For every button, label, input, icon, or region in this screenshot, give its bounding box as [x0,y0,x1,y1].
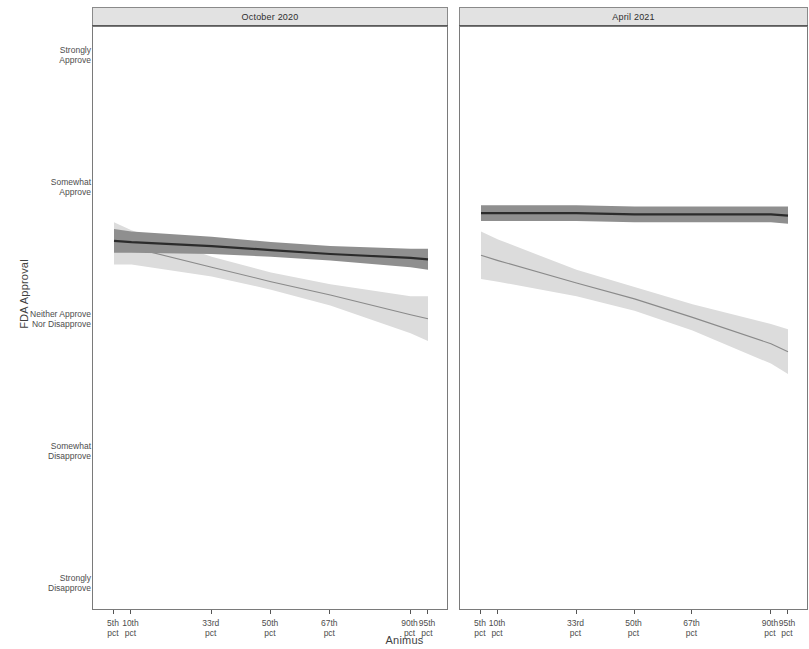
y-tick-label: Somewhat Disapprove [1,441,91,461]
x-tick-label: 10th pct [107,618,153,638]
x-tick-mark [634,610,635,614]
x-tick-label: 50th pct [611,618,657,638]
x-tick-label: 33rd pct [188,618,234,638]
x-tick-mark [410,610,411,614]
x-tick-mark [576,610,577,614]
x-tick-mark [113,610,114,614]
y-tick-label: Strongly Approve [1,45,91,65]
panel-strip-april-2021: April 2021 [459,7,808,26]
x-tick-mark [787,610,788,614]
facet-chart-figure: FDA Approval Animus Strongly ApproveSome… [0,0,809,649]
y-tick-label: Neither Approve Nor Disapprove [1,309,91,329]
panel-strip-label: October 2020 [242,12,299,22]
panel-plot-area [93,27,447,609]
x-tick-label: 95th pct [764,618,809,638]
plot-panel-april-2021 [459,26,808,610]
x-tick-mark [329,610,330,614]
x-tick-label: 95th pct [404,618,450,638]
x-tick-label: 10th pct [474,618,520,638]
panel-plot-area [460,27,807,609]
y-axis-title: FDA Approval [18,224,30,364]
x-tick-mark [130,610,131,614]
y-tick-label: Somewhat Approve [1,177,91,197]
x-tick-label: 67th pct [306,618,352,638]
x-tick-mark [211,610,212,614]
x-tick-mark [427,610,428,614]
confidence-band-light-series [481,232,788,375]
x-tick-label: 67th pct [668,618,714,638]
x-tick-mark [497,610,498,614]
panel-strip-label: April 2021 [612,12,655,22]
x-tick-mark [270,610,271,614]
x-tick-mark [480,610,481,614]
x-tick-mark [770,610,771,614]
plot-panel-october-2020 [92,26,448,610]
x-tick-mark [691,610,692,614]
y-tick-label: Strongly Disapprove [1,573,91,593]
panel-strip-october-2020: October 2020 [92,7,448,26]
x-tick-label: 33rd pct [553,618,599,638]
x-tick-label: 50th pct [247,618,293,638]
